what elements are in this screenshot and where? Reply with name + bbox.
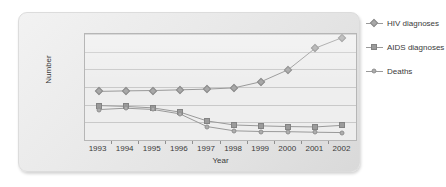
square-marker-icon xyxy=(366,43,383,52)
data-point-marker xyxy=(177,111,182,116)
plot-area xyxy=(84,33,357,141)
x-tick-label: 1994 xyxy=(110,144,140,153)
legend-item[interactable]: AIDS diagnoses xyxy=(366,42,446,52)
x-tick-label: 2002 xyxy=(326,144,356,153)
legend-item[interactable]: Deaths xyxy=(366,66,446,76)
x-tick-label: 1997 xyxy=(191,144,221,153)
legend-item-label: HIV diagnoses xyxy=(387,19,439,28)
data-point-marker xyxy=(150,107,155,112)
data-point-marker xyxy=(96,107,101,112)
chart-panel: Number Year 6000500040003000200010000 19… xyxy=(18,12,360,172)
x-tick-mark xyxy=(138,141,139,144)
x-tick-mark xyxy=(328,141,329,144)
x-tick-mark xyxy=(301,141,302,144)
circle-marker-icon xyxy=(366,67,383,76)
x-axis-label: Year xyxy=(84,156,357,165)
data-point-marker xyxy=(204,124,209,129)
x-tick-mark xyxy=(165,141,166,144)
data-point-marker xyxy=(286,129,291,134)
data-point-marker xyxy=(232,128,237,133)
data-point-marker xyxy=(259,129,264,134)
x-tick-label: 1995 xyxy=(137,144,167,153)
x-tick-mark xyxy=(220,141,221,144)
x-tick-mark xyxy=(247,141,248,144)
data-point-marker xyxy=(313,130,318,135)
x-tick-label: 2000 xyxy=(272,144,302,153)
legend-item[interactable]: HIV diagnoses xyxy=(366,18,446,28)
data-point-marker xyxy=(204,118,210,124)
series-line xyxy=(99,38,343,92)
data-point-marker xyxy=(339,122,345,128)
x-tick-mark xyxy=(111,141,112,144)
x-tick-label: 2001 xyxy=(299,144,329,153)
x-tick-label: 1999 xyxy=(245,144,275,153)
chart-figure: Number Year 6000500040003000200010000 19… xyxy=(0,0,446,187)
legend-item-label: Deaths xyxy=(387,67,412,76)
x-tick-mark xyxy=(192,141,193,144)
data-point-marker xyxy=(258,123,264,129)
y-axis-label: Number xyxy=(44,40,53,100)
data-point-marker xyxy=(231,122,237,128)
x-tick-mark xyxy=(274,141,275,144)
chart-legend: HIV diagnosesAIDS diagnosesDeaths xyxy=(366,18,446,90)
data-point-marker xyxy=(123,106,128,111)
x-tick-label: 1993 xyxy=(83,144,113,153)
x-tick-label: 1998 xyxy=(218,144,248,153)
series-line xyxy=(99,108,343,132)
x-tick-label: 1996 xyxy=(164,144,194,153)
data-point-marker xyxy=(340,130,345,135)
diamond-marker-icon xyxy=(366,19,383,28)
legend-item-label: AIDS diagnoses xyxy=(387,43,444,52)
